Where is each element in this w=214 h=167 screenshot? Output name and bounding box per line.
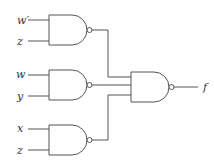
input-label-z-1: z xyxy=(16,35,23,48)
nand-gate-1 xyxy=(49,15,92,45)
input-wires xyxy=(28,20,49,150)
input-label-x: x xyxy=(17,122,24,135)
input-label-w: w xyxy=(16,68,26,81)
interconnect-wires xyxy=(92,30,131,140)
output-label-f: f xyxy=(202,81,209,94)
input-label-y: y xyxy=(16,90,24,103)
logic-circuit-diagram: w′ z w y x z f xyxy=(0,0,214,167)
input-label-z-2: z xyxy=(16,144,23,157)
nand-gate-output xyxy=(131,72,174,102)
nand-gate-2 xyxy=(49,70,92,100)
nand-gate-3 xyxy=(49,125,92,155)
input-label-w-prime: w′ xyxy=(17,14,29,27)
